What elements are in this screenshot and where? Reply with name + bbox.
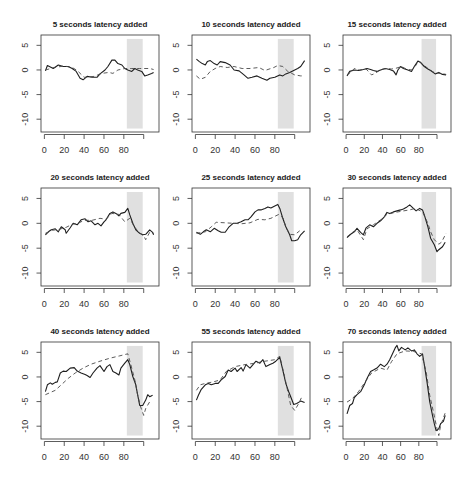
y-tick-label: 0 (171, 374, 181, 379)
y-tick-label: 5 (20, 350, 30, 355)
x-tick-label: 40 (377, 299, 387, 309)
y-tick-label: -10 (322, 267, 332, 280)
solid-series-line (196, 204, 304, 240)
shaded-region (127, 346, 143, 436)
x-tick-label: 0 (344, 145, 349, 155)
dashed-series-line (347, 208, 446, 244)
solid-series-line (45, 360, 152, 406)
x-tick-label: 80 (270, 299, 280, 309)
x-tick-label: 60 (99, 299, 109, 309)
x-tick-label: 80 (270, 452, 280, 462)
x-tick-label: 20 (359, 299, 369, 309)
x-tick-label: 40 (230, 145, 240, 155)
x-tick-label: 80 (119, 145, 129, 155)
y-tick-label: 5 (20, 196, 30, 201)
plot-panel-25s: 25 seconds latency added 02040608050-5-1… (0, 0, 468, 479)
dashed-series-line (196, 356, 302, 410)
solid-series-line (45, 60, 153, 80)
y-tick-label: 5 (322, 43, 332, 48)
x-tick-label: 40 (79, 299, 89, 309)
y-tick-label: -5 (322, 398, 332, 406)
plot-title: 30 seconds latency added (347, 173, 446, 182)
plot-canvas: 02040608050-5-10 (0, 0, 468, 479)
plot-panel-15s: 15 seconds latency added 02040608050-5-1… (0, 0, 468, 479)
y-tick-label: -10 (20, 113, 30, 126)
dashed-series-line (196, 66, 304, 80)
x-tick-label: 80 (270, 145, 280, 155)
dashed-series-line (45, 213, 153, 239)
y-tick-label: 0 (20, 374, 30, 379)
x-tick-label: 40 (377, 145, 387, 155)
y-tick-label: 0 (171, 67, 181, 72)
plot-frame (192, 35, 310, 132)
plot-title: 15 seconds latency added (347, 20, 446, 29)
y-tick-label: -10 (171, 420, 181, 433)
y-tick-label: -5 (171, 91, 181, 99)
x-tick-label: 0 (193, 452, 198, 462)
plot-canvas: 02040608050-5-10 (0, 0, 468, 479)
x-tick-label: 40 (377, 452, 387, 462)
x-tick-label: 0 (344, 452, 349, 462)
x-tick-label: 80 (414, 452, 424, 462)
x-tick-label: 80 (119, 299, 129, 309)
x-tick-label: 0 (193, 299, 198, 309)
x-tick-label: 0 (42, 452, 47, 462)
solid-series-line (196, 357, 304, 404)
shaded-region (278, 346, 294, 436)
x-tick-label: 60 (250, 145, 260, 155)
shaded-region (422, 192, 437, 283)
x-tick-label: 60 (99, 452, 109, 462)
x-tick-label: 40 (230, 452, 240, 462)
x-tick-label: 80 (414, 145, 424, 155)
x-tick-label: 20 (59, 452, 69, 462)
x-tick-label: 60 (99, 145, 109, 155)
plot-canvas: 02040608050-5-10 (0, 0, 468, 479)
y-tick-label: -5 (171, 244, 181, 252)
x-tick-label: 60 (250, 452, 260, 462)
dashed-series-line (196, 214, 299, 234)
y-tick-label: 0 (322, 374, 332, 379)
shaded-region (422, 39, 437, 129)
solid-series-line (347, 205, 445, 252)
dashed-series-line (347, 62, 446, 75)
plot-frame (41, 342, 159, 439)
plot-title: 55 seconds latency added (201, 327, 300, 336)
y-tick-label: 5 (322, 350, 332, 355)
y-tick-label: 5 (171, 350, 181, 355)
plot-panel-10s: 10 seconds latency added 02040608050-5-1… (0, 0, 468, 479)
x-tick-label: 0 (42, 145, 47, 155)
plot-panel-70s: 70 seconds latency added 02040608050-5-1… (0, 0, 468, 479)
x-tick-label: 60 (396, 452, 406, 462)
plot-title: 20 seconds latency added (50, 173, 149, 182)
plot-canvas: 02040608050-5-10 (0, 0, 468, 479)
x-tick-label: 60 (396, 145, 406, 155)
y-tick-label: -5 (171, 398, 181, 406)
solid-series-line (347, 345, 445, 430)
plot-title: 25 seconds latency added (201, 173, 300, 182)
y-tick-label: 5 (171, 196, 181, 201)
x-tick-label: 60 (396, 299, 406, 309)
plot-frame (41, 188, 159, 286)
x-tick-label: 0 (193, 145, 198, 155)
x-tick-label: 40 (79, 452, 89, 462)
plot-panel-20s: 20 seconds latency added 02040608050-5-1… (0, 0, 468, 479)
x-tick-label: 80 (119, 452, 129, 462)
plot-title: 5 seconds latency added (53, 20, 148, 29)
y-tick-label: 5 (322, 196, 332, 201)
plot-canvas: 02040608050-5-10 (0, 0, 468, 479)
x-tick-label: 20 (210, 299, 220, 309)
y-tick-label: -10 (171, 267, 181, 280)
y-tick-label: -10 (171, 113, 181, 126)
y-tick-label: 0 (322, 221, 332, 226)
y-tick-label: 5 (171, 43, 181, 48)
plot-panel-55s: 55 seconds latency added 02040608050-5-1… (0, 0, 468, 479)
x-tick-label: 40 (79, 145, 89, 155)
x-tick-label: 60 (250, 299, 260, 309)
y-tick-label: -5 (322, 91, 332, 99)
x-tick-label: 20 (59, 299, 69, 309)
plot-canvas: 02040608050-5-10 (0, 0, 468, 479)
plot-panel-40s: 40 seconds latency added 02040608050-5-1… (0, 0, 468, 479)
plot-frame (192, 342, 310, 439)
y-tick-label: -5 (20, 398, 30, 406)
plot-frame (343, 188, 451, 286)
